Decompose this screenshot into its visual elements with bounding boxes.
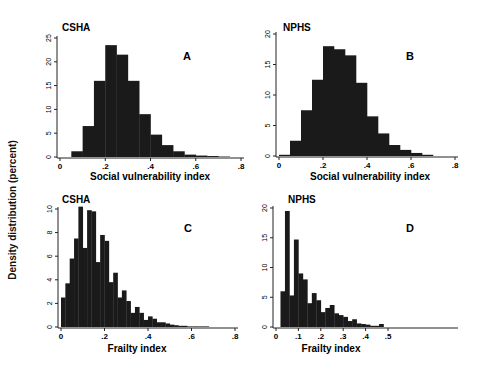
histogram-bar	[94, 81, 106, 157]
x-tick-label: .2	[317, 332, 324, 341]
histogram-bar	[126, 301, 131, 327]
panel-a: CSHA A Social vulnerability index 051015…	[45, 22, 245, 182]
y-tick-label: 10	[46, 205, 53, 213]
panel-b-title: NPHS	[283, 22, 311, 33]
histogram-bar	[184, 155, 196, 157]
y-tick-label: 0	[46, 325, 53, 329]
y-tick-label: 20	[45, 58, 52, 66]
y-tick-label: 6	[46, 254, 53, 258]
histogram-bar	[205, 326, 210, 327]
x-tick-label: .4	[147, 162, 154, 171]
x-tick-label: .2	[101, 332, 108, 341]
histogram-bar	[334, 313, 339, 327]
histogram-bar	[370, 326, 375, 327]
histogram-bar	[105, 241, 110, 327]
x-tick-label: 0	[59, 332, 64, 341]
histogram-bar	[375, 326, 380, 327]
histogram-bar	[65, 283, 70, 327]
y-tick-label: 0	[45, 155, 52, 159]
histogram-bar	[361, 324, 366, 327]
histogram-bar	[135, 307, 140, 327]
histogram-bar	[139, 114, 151, 157]
x-tick-label: .1	[295, 332, 302, 341]
histogram-bar	[128, 81, 140, 157]
histogram-bar	[303, 279, 308, 327]
x-tick-label: .4	[364, 161, 371, 170]
histogram-bar	[298, 273, 303, 327]
histogram-bar	[367, 116, 378, 156]
panel-a-letter: A	[183, 50, 191, 62]
histogram-bar	[301, 110, 312, 156]
x-tick-label: .8	[238, 162, 245, 171]
y-tick-label: 10	[261, 264, 268, 272]
panel-d-xlabel: Frailty index	[302, 343, 361, 354]
histogram-bar	[196, 156, 208, 157]
histogram-bar	[422, 155, 433, 156]
histogram-bar	[109, 282, 114, 327]
panel-b-xlabel: Social vulnerability index	[310, 171, 430, 182]
histogram-figure: CSHA A Social vulnerability index 051015…	[0, 0, 479, 370]
panel-b: NPHS B Social vulnerability index 051015…	[264, 22, 459, 182]
panel-c: CSHA C Frailty index 02468100.2.4.6.8	[46, 194, 239, 354]
histogram-bar	[348, 321, 353, 327]
y-tick-label: 0	[264, 154, 271, 158]
panel-d-letter: D	[406, 222, 414, 234]
histogram-bar	[343, 317, 348, 327]
histogram-bar	[83, 248, 88, 327]
histogram-bar	[87, 210, 92, 327]
panel-c-letter: C	[184, 222, 192, 234]
histogram-bar	[345, 55, 356, 156]
histogram-bar	[100, 235, 105, 327]
histogram-bar	[151, 135, 163, 157]
histogram-bar	[170, 325, 175, 327]
histogram-bar	[161, 322, 166, 327]
histogram-bar	[162, 145, 174, 157]
x-tick-label: .4	[145, 332, 152, 341]
histogram-bar	[71, 151, 83, 157]
y-tick-label: 5	[264, 123, 271, 127]
histogram-bar	[74, 239, 79, 328]
histogram-bar	[61, 298, 66, 328]
histogram-bar	[178, 326, 183, 327]
histogram-bar	[307, 303, 312, 327]
histogram-bar	[289, 295, 294, 327]
histogram-bar	[312, 293, 317, 327]
x-tick-label: .2	[320, 161, 327, 170]
x-tick-label: .8	[232, 332, 239, 341]
histogram-bars	[280, 211, 383, 327]
y-tick-label: 20	[261, 204, 268, 212]
histogram-bar	[152, 319, 157, 327]
histogram-bar	[165, 323, 170, 327]
histogram-bar	[207, 156, 219, 157]
panel-a-xlabel: Social vulnerability index	[90, 171, 210, 182]
x-tick-label: 0	[274, 332, 279, 341]
histogram-bar	[280, 291, 285, 327]
histogram-bar	[294, 240, 299, 327]
histogram-bar	[323, 46, 334, 156]
histogram-bar	[117, 55, 129, 157]
histogram-bar	[196, 326, 201, 327]
histogram-bar	[316, 300, 321, 327]
histogram-bar	[173, 151, 185, 157]
y-tick-label: 15	[45, 82, 52, 90]
y-tick-label: 10	[45, 105, 52, 113]
panel-c-xlabel: Frailty index	[108, 343, 167, 354]
histogram-bar	[200, 326, 205, 327]
histogram-bar	[334, 49, 345, 156]
histogram-bar	[105, 45, 117, 157]
histogram-bar	[339, 315, 344, 327]
y-tick-label: 0	[261, 325, 268, 329]
y-tick-label: 25	[45, 34, 52, 42]
panel-a-title: CSHA	[62, 22, 90, 33]
histogram-bar	[400, 150, 411, 156]
histogram-bar	[144, 320, 149, 327]
y-tick-label: 15	[264, 61, 271, 69]
histogram-bar	[139, 313, 144, 327]
x-tick-label: .6	[408, 161, 415, 170]
histogram-bar	[83, 126, 95, 157]
histogram-bar	[378, 133, 389, 156]
x-tick-label: .8	[452, 161, 459, 170]
x-tick-label: 0	[277, 161, 282, 170]
histogram-bar	[352, 319, 357, 327]
histogram-bar	[285, 211, 290, 327]
